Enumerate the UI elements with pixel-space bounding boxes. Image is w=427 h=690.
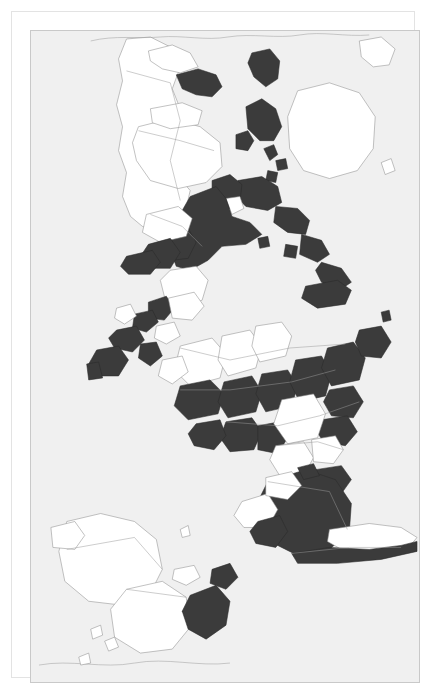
figure-outer-frame <box>11 11 415 678</box>
world-map-svg <box>31 31 419 682</box>
map-figure <box>0 0 427 690</box>
country-sri-lanka <box>258 236 270 248</box>
country-australia <box>288 83 376 179</box>
country-niger <box>218 376 262 418</box>
country-egypt <box>252 322 292 362</box>
map-plot-area <box>30 30 420 683</box>
